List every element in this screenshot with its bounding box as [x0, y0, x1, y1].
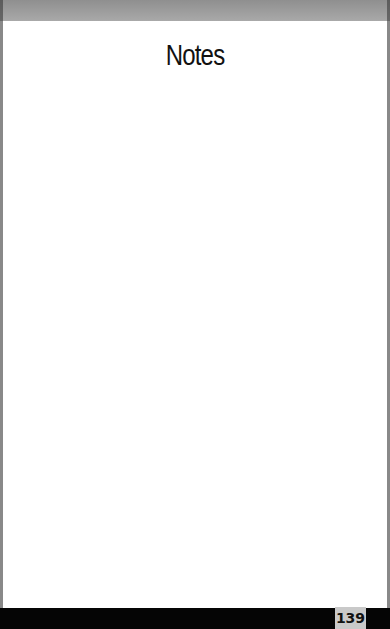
top-header-band	[0, 0, 390, 21]
footer-bar	[0, 608, 390, 629]
left-page-edge	[0, 0, 3, 629]
page-title: Notes	[39, 38, 351, 72]
page-number: 139	[335, 607, 366, 629]
